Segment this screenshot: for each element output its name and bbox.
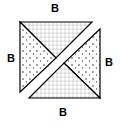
label-bottom: B xyxy=(59,107,67,118)
label-right: B xyxy=(105,57,113,68)
label-left: B xyxy=(7,53,15,64)
label-top: B xyxy=(51,3,59,14)
